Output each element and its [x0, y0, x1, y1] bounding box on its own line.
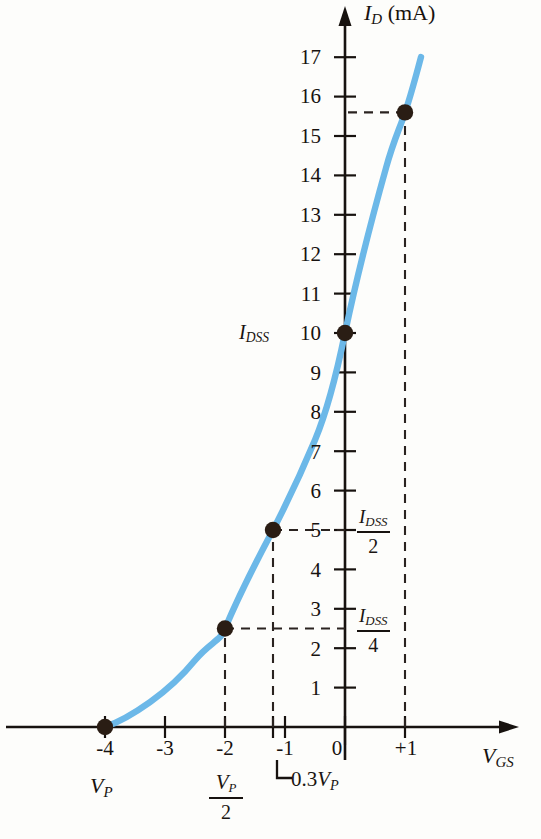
- vp-sub: P: [103, 784, 112, 800]
- xtick-label-zero: 0: [322, 738, 352, 759]
- ytick-label-13: 13: [283, 205, 321, 226]
- x-axis-title-sub: GS: [495, 754, 513, 770]
- x-axis-title: VGS: [482, 745, 514, 770]
- ytick-label-9: 9: [283, 363, 321, 384]
- xtick-label-minus4: -4: [85, 738, 125, 759]
- ytick-label-8: 8: [283, 402, 321, 423]
- idss-label: IDSS: [239, 322, 269, 345]
- vp-half-denominator: 2: [209, 801, 243, 822]
- point-vp-half: [217, 620, 233, 636]
- xtick-label-plus1: +1: [385, 738, 427, 759]
- fraction-bar: [357, 630, 390, 632]
- vp-half-fraction: VP 2: [209, 772, 243, 822]
- idss-main: I: [239, 321, 246, 343]
- ytick-label-2: 2: [283, 639, 321, 660]
- ytick-label-7: 7: [283, 442, 321, 463]
- xtick-label-minus2: -2: [205, 738, 245, 759]
- zero-three-vp-main: V: [317, 767, 330, 791]
- ytick-label-1: 1: [283, 678, 321, 699]
- y-axis-title-unit: (mA): [388, 0, 436, 25]
- ytick-label-4: 4: [283, 560, 321, 581]
- ytick-label-14: 14: [283, 165, 321, 186]
- bracket-0p3vp: [277, 760, 292, 778]
- idss-sub: DSS: [246, 330, 269, 345]
- y-axis-title-sub: D: [371, 11, 382, 27]
- idss-half-denominator: 2: [357, 535, 390, 556]
- idss-quarter-numerator: IDSS: [357, 606, 390, 629]
- point-vp: [97, 719, 113, 735]
- point-plus1: [397, 104, 413, 120]
- fraction-bar: [357, 531, 390, 533]
- xtick-label-minus1: -1: [265, 738, 305, 759]
- ytick-label-16: 16: [283, 86, 321, 107]
- ytick-label-12: 12: [283, 244, 321, 265]
- vp-main: V: [90, 773, 103, 798]
- vp-half-numerator: VP: [209, 772, 243, 796]
- vp-label: VP: [90, 775, 113, 800]
- ytick-label-5: 5: [283, 520, 321, 541]
- ytick-label-17: 17: [283, 47, 321, 68]
- ytick-label-3: 3: [283, 599, 321, 620]
- x-axis-title-main: V: [482, 743, 495, 768]
- ytick-label-6: 6: [283, 481, 321, 502]
- ytick-label-11: 11: [283, 284, 321, 305]
- zero-three-vp-label: 0.3VP: [291, 767, 339, 794]
- point-idss: [337, 325, 353, 341]
- idss-quarter-fraction: IDSS 4: [357, 606, 390, 655]
- ytick-label-10: 10: [283, 323, 321, 344]
- zero-three-number: 0.3: [291, 767, 317, 791]
- x-axis-arrowhead: [499, 721, 519, 734]
- fraction-bar: [209, 797, 243, 799]
- y-axis-arrowhead: [339, 6, 352, 26]
- ytick-label-15: 15: [283, 126, 321, 147]
- zero-three-vp-sub: P: [330, 777, 339, 793]
- xtick-label-minus3: -3: [145, 738, 185, 759]
- plot-canvas: [0, 0, 541, 839]
- point-0p3vp: [265, 522, 281, 538]
- transfer-characteristic-figure: ID (mA) VGS 17 16 15 14 13 12 11 10 9 8 …: [0, 0, 541, 839]
- idss-half-numerator: IDSS: [357, 507, 390, 530]
- idss-quarter-denominator: 4: [357, 634, 390, 655]
- y-axis-title: ID (mA): [364, 2, 435, 27]
- idss-half-fraction: IDSS 2: [357, 507, 390, 556]
